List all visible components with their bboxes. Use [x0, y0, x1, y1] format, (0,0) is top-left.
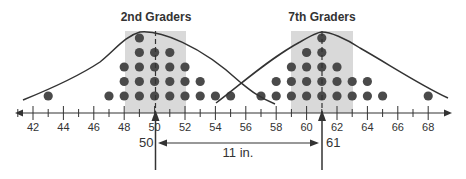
data-dot: [135, 48, 144, 57]
data-dot: [150, 48, 159, 57]
tick-label: 42: [27, 121, 39, 133]
data-dot: [180, 77, 189, 86]
dot-plot-chart: 2nd Graders 7th Graders 4244464850525456…: [0, 0, 466, 179]
data-dot: [165, 77, 174, 86]
data-dot: [196, 91, 205, 100]
data-dot: [363, 77, 372, 86]
data-dot: [287, 77, 296, 86]
tick-label: 44: [57, 121, 69, 133]
arrow-left-icon: [158, 140, 167, 147]
arrow-right-icon: [444, 110, 452, 117]
difference-label: 11 in.: [223, 145, 254, 160]
tick-label: 46: [88, 121, 100, 133]
data-dot: [378, 91, 387, 100]
curve-2nd-graders-tail: [240, 82, 275, 104]
tick-label: 64: [361, 121, 373, 133]
data-dot: [302, 77, 311, 86]
data-dot: [120, 77, 129, 86]
tick-label: 52: [179, 121, 191, 133]
data-dot: [272, 91, 281, 100]
data-dot: [165, 62, 174, 71]
tick-label: 50: [148, 121, 160, 133]
data-dot: [150, 91, 159, 100]
data-dot: [104, 91, 113, 100]
dots: [44, 33, 433, 100]
data-dot: [226, 91, 235, 100]
data-dot: [44, 91, 53, 100]
data-dot: [180, 91, 189, 100]
data-dot: [165, 91, 174, 100]
tick-label: 62: [331, 121, 343, 133]
data-dot: [135, 62, 144, 71]
data-dot: [302, 48, 311, 57]
tick-label: 58: [270, 121, 282, 133]
arrow-right-icon: [310, 140, 319, 147]
tick-label: 56: [240, 121, 252, 133]
data-dot: [120, 62, 129, 71]
mean-label-7th: 61: [326, 135, 340, 150]
data-dot: [120, 91, 129, 100]
data-dot: [302, 62, 311, 71]
data-dot: [332, 91, 341, 100]
ticks: 4244464850525456586062646668: [18, 106, 435, 133]
data-dot: [332, 77, 341, 86]
mean-label-2nd: 50: [139, 135, 153, 150]
tick-label: 68: [422, 121, 434, 133]
data-dot: [196, 77, 205, 86]
data-dot: [211, 91, 220, 100]
tick-label: 48: [118, 121, 130, 133]
data-dot: [135, 77, 144, 86]
data-dot: [424, 91, 433, 100]
data-dot: [302, 91, 311, 100]
data-dot: [272, 77, 281, 86]
data-dot: [287, 62, 296, 71]
data-dot: [348, 77, 357, 86]
title-7th-graders: 7th Graders: [288, 10, 356, 24]
data-dot: [135, 91, 144, 100]
tick-label: 66: [392, 121, 404, 133]
data-dot: [150, 77, 159, 86]
arrow-left-icon: [15, 110, 23, 117]
data-dot: [150, 62, 159, 71]
data-dot: [348, 91, 357, 100]
data-dot: [180, 62, 189, 71]
tick-label: 60: [300, 121, 312, 133]
tick-label: 54: [209, 121, 221, 133]
data-dot: [332, 62, 341, 71]
title-2nd-graders: 2nd Graders: [121, 10, 192, 24]
data-dot: [165, 48, 174, 57]
data-dot: [135, 33, 144, 42]
data-dot: [287, 91, 296, 100]
data-dot: [363, 91, 372, 100]
